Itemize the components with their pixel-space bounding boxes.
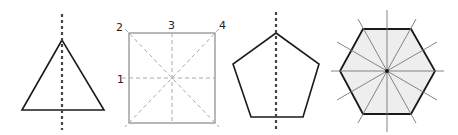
square-label-3: 3 xyxy=(168,19,175,32)
triangle-shape xyxy=(22,14,104,130)
square-label-1: 1 xyxy=(117,73,124,86)
square-label-2: 2 xyxy=(116,21,123,34)
pentagon-shape xyxy=(233,12,319,130)
square-shape: 1 2 3 4 xyxy=(116,19,226,127)
diagram-canvas: 1 2 3 4 xyxy=(0,0,458,135)
hexagon-shape xyxy=(331,10,444,132)
symmetry-diagram: 1 2 3 4 xyxy=(0,0,458,135)
square-label-4: 4 xyxy=(219,19,226,32)
hexagon-center-dot xyxy=(385,69,389,73)
